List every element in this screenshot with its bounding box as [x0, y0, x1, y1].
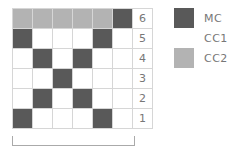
- chart-cell-cc1: [113, 89, 133, 109]
- chart-cell-cc1: [33, 29, 53, 49]
- legend-item-mc: MC: [174, 8, 228, 28]
- chart-cell-cc2: [53, 9, 73, 29]
- color-swatch: [174, 28, 194, 48]
- chart-cell-mc: [73, 89, 93, 109]
- chart-cell-cc2: [13, 9, 33, 29]
- chart-cell-cc2: [73, 9, 93, 29]
- chart-cell-cc1: [73, 109, 93, 129]
- colorwork-chart: 654321: [12, 8, 153, 129]
- chart-cell-cc1: [93, 89, 113, 109]
- chart-cell-cc1: [113, 29, 133, 49]
- chart-cell-mc: [93, 109, 113, 129]
- chart-cell-cc1: [113, 69, 133, 89]
- chart-cell-cc2: [33, 9, 53, 29]
- chart-cell-cc1: [93, 69, 113, 89]
- chart-cell-cc1: [93, 49, 113, 69]
- chart-cell-mc: [93, 29, 113, 49]
- chart-cell-mc: [13, 29, 33, 49]
- chart-cell-cc1: [53, 89, 73, 109]
- row-number: 5: [133, 29, 153, 49]
- chart-cell-cc1: [73, 29, 93, 49]
- chart-cell-cc1: [53, 29, 73, 49]
- legend-label: CC1: [204, 32, 228, 45]
- chart-cell-cc1: [73, 69, 93, 89]
- chart-cell-cc1: [13, 49, 33, 69]
- legend: MCCC1CC2: [174, 8, 228, 68]
- row-number: 1: [133, 109, 153, 129]
- chart-cell-mc: [33, 89, 53, 109]
- legend-item-cc1: CC1: [174, 28, 228, 48]
- chart-cell-mc: [113, 9, 133, 29]
- chart-cell-cc1: [13, 89, 33, 109]
- chart-cell-mc: [13, 109, 33, 129]
- chart-cell-cc2: [93, 9, 113, 29]
- repeat-bracket: [12, 136, 135, 146]
- chart-cell-cc1: [53, 49, 73, 69]
- chart-cell-mc: [73, 49, 93, 69]
- chart-cell-cc1: [33, 109, 53, 129]
- chart-cell-cc1: [113, 109, 133, 129]
- row-number: 3: [133, 69, 153, 89]
- chart-cell-cc1: [13, 69, 33, 89]
- row-number: 2: [133, 89, 153, 109]
- chart-cell-cc1: [113, 49, 133, 69]
- chart-cell-mc: [33, 49, 53, 69]
- row-number: 6: [133, 9, 153, 29]
- chart-cell-mc: [53, 69, 73, 89]
- chart-cell-cc1: [53, 109, 73, 129]
- legend-label: MC: [204, 12, 222, 25]
- legend-label: CC2: [204, 52, 228, 65]
- chart-cell-cc1: [33, 69, 53, 89]
- color-swatch: [174, 8, 194, 28]
- row-number: 4: [133, 49, 153, 69]
- legend-item-cc2: CC2: [174, 48, 228, 68]
- color-swatch: [174, 48, 194, 68]
